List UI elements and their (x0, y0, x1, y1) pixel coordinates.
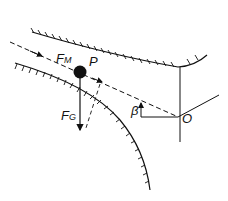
diagram-canvas: FM P FG β O (0, 0, 228, 201)
fm-label-sub: M (64, 55, 72, 65)
normal-component-dashed-line (86, 84, 100, 128)
lower-channel-wall (15, 63, 150, 190)
diagram-drawing (0, 0, 228, 201)
angle-beta-label: β (131, 104, 138, 117)
particle-label: P (89, 55, 98, 68)
fg-label: FG (61, 109, 76, 122)
fg-label-main: F (61, 108, 69, 123)
fm-direction-arrow (30, 51, 42, 56)
fg-label-sub: G (69, 112, 76, 122)
particle-ball (74, 66, 87, 79)
fm-label-main: F (56, 51, 64, 66)
fm-label: FM (56, 52, 71, 65)
velocity-direction-arrow (92, 78, 102, 82)
center-o-label: O (182, 112, 192, 125)
